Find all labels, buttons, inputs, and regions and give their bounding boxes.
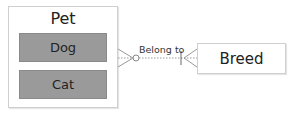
relationship-connector: [0, 0, 293, 117]
relationship-label: Belong to: [139, 44, 184, 55]
